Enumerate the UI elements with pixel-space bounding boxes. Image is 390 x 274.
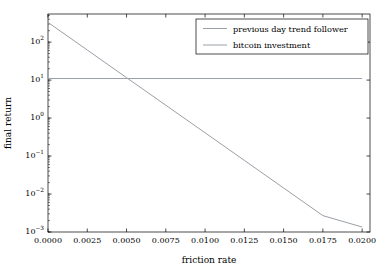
legend-label: previous day trend follower <box>233 24 348 32</box>
y-tick-label: 100 <box>22 114 44 122</box>
y-axis-title: final return <box>3 97 13 149</box>
y-tick-label: 102 <box>22 38 44 46</box>
x-tick-label: 0.0150 <box>270 237 298 245</box>
x-tick-label: 0.0025 <box>73 237 101 245</box>
y-axis-major-ticks <box>48 42 370 232</box>
x-tick-label: 0.0100 <box>191 237 219 245</box>
y-tick-label: 10−2 <box>22 190 44 198</box>
y-tick-label: 10−3 <box>22 228 44 236</box>
x-tick-label: 0.0075 <box>152 237 180 245</box>
plot-canvas <box>0 0 390 274</box>
legend-label: bitcoin investment <box>233 41 310 49</box>
x-tick-label: 0.0050 <box>113 237 141 245</box>
x-tick-label: 0.0000 <box>34 237 62 245</box>
x-tick-label: 0.0200 <box>348 237 376 245</box>
y-tick-label: 101 <box>22 76 44 84</box>
chart-figure: 10210110010−110−210−3 0.00000.00250.0050… <box>0 0 390 274</box>
x-axis-title: friction rate <box>182 255 237 265</box>
x-tick-label: 0.0125 <box>230 237 258 245</box>
x-tick-label: 0.0175 <box>309 237 337 245</box>
y-tick-label: 10−1 <box>22 152 44 160</box>
